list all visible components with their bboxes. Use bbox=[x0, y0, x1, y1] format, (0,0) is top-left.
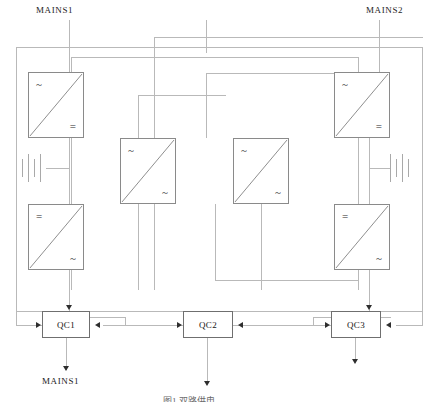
inverter-right: = ~ bbox=[334, 204, 390, 270]
mains1-feeder-drop bbox=[69, 20, 70, 72]
inverter-left-output-symbol: ~ bbox=[70, 253, 76, 264]
converter-mid-right-output-drop bbox=[215, 204, 216, 280]
converter-mid-left: ~ ~ bbox=[120, 138, 176, 204]
dc-link-right bbox=[369, 138, 370, 204]
inverter-right-output-symbol: ~ bbox=[376, 253, 382, 264]
rectifier-right-output-symbol: = bbox=[376, 121, 382, 132]
switch-qc1-label: QC1 bbox=[57, 320, 75, 330]
qc1-output-arrow bbox=[63, 366, 69, 371]
mains1-top-label: MAINS1 bbox=[36, 5, 73, 15]
qc2-qc3-tie bbox=[233, 325, 331, 326]
rectifier-right-input-symbol: ~ bbox=[342, 79, 348, 90]
inverter-left-input-symbol: = bbox=[36, 211, 42, 222]
converter-mid-left-input-tap bbox=[138, 95, 226, 96]
power-system-diagram: MAINS1 MAINS2 ~ = = ~ bbox=[0, 0, 434, 402]
converter-mid-right-return-bus bbox=[215, 280, 359, 281]
rectifier-left-input-symbol: ~ bbox=[36, 79, 42, 90]
qc1-input-arrow-top bbox=[66, 305, 72, 310]
battery-right-tap bbox=[369, 168, 391, 169]
mains2-top-label: MAINS2 bbox=[366, 5, 403, 15]
rectifier-left-output-symbol: = bbox=[70, 121, 76, 132]
converter-mid-left-output-symbol: ~ bbox=[162, 187, 168, 198]
figure-caption: 图1 双路供电 bbox=[163, 394, 303, 402]
qc1-input-arrow-right bbox=[95, 322, 100, 328]
switch-qc2[interactable]: QC2 bbox=[183, 311, 233, 338]
converter-mid-right: ~ ~ bbox=[233, 138, 289, 204]
qc2-output-feeder bbox=[207, 338, 208, 384]
battery-right bbox=[390, 154, 416, 182]
converter-mid-right-output-symbol: ~ bbox=[275, 187, 281, 198]
outer-bus-right bbox=[422, 47, 423, 311]
inner-bus-top bbox=[71, 57, 359, 58]
qc3-input-arrow-right bbox=[386, 322, 391, 328]
qc1-input-arrow-left bbox=[36, 322, 41, 328]
qc3-input-arrow-left bbox=[325, 322, 330, 328]
qc2-input-arrow-right bbox=[238, 322, 243, 328]
crossfeed-bus-top bbox=[154, 37, 423, 38]
battery-left-tap bbox=[46, 168, 70, 169]
qc3-tie-riser bbox=[313, 317, 314, 326]
converter-mid-right-input-drop bbox=[206, 73, 207, 138]
qc2-output-arrow bbox=[204, 381, 210, 386]
inverter-right-input-symbol: = bbox=[342, 211, 348, 222]
switch-qc2-label: QC2 bbox=[199, 320, 217, 330]
qc3-output-arrow bbox=[352, 359, 358, 364]
converter-mid-left-input-drop bbox=[138, 95, 139, 138]
rectifier-right: ~ = bbox=[334, 72, 390, 138]
converter-mid-right-center-drop bbox=[261, 204, 262, 290]
dc-link-left bbox=[69, 138, 70, 204]
rectifier-left: ~ = bbox=[28, 72, 84, 138]
qc3-right-feed bbox=[396, 325, 423, 326]
inverter-left: = ~ bbox=[28, 204, 84, 270]
converter-mid-left-input-symbol: ~ bbox=[128, 145, 134, 156]
qc1-tie-riser bbox=[125, 317, 126, 326]
qc3-input-arrow-top bbox=[366, 305, 372, 310]
converter-mid-right-input-symbol: ~ bbox=[241, 145, 247, 156]
outer-bus-top bbox=[16, 47, 423, 48]
switch-qc3-label: QC3 bbox=[347, 320, 365, 330]
qc2-input-arrow-left bbox=[177, 322, 182, 328]
qc1-qc2-tie bbox=[103, 325, 183, 326]
outer-bus-left bbox=[16, 47, 17, 311]
converter-mid-left-output-drop bbox=[138, 204, 139, 290]
mains1-bottom-label: MAINS1 bbox=[42, 376, 79, 386]
qc1-left-feed-drop bbox=[16, 311, 17, 325]
switch-qc1[interactable]: QC1 bbox=[42, 311, 90, 338]
qc3-right-feed-drop bbox=[422, 311, 423, 325]
battery-left bbox=[22, 154, 48, 182]
switch-qc3[interactable]: QC3 bbox=[331, 311, 381, 338]
